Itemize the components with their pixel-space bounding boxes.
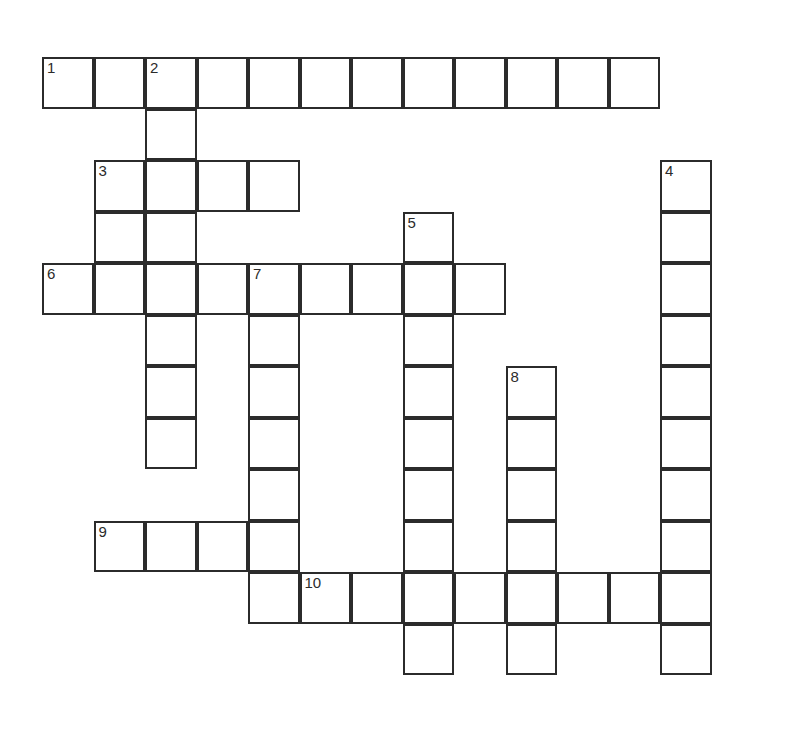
crossword-cell[interactable] [145, 418, 197, 470]
crossword-cell[interactable] [403, 57, 455, 109]
crossword-cell[interactable] [660, 315, 712, 367]
crossword-cell[interactable] [197, 160, 249, 212]
crossword-cell[interactable] [403, 366, 455, 418]
crossword-cell[interactable] [248, 57, 300, 109]
crossword-cell[interactable] [403, 624, 455, 676]
crossword-cell[interactable]: 4 [660, 160, 712, 212]
crossword-cell[interactable] [660, 263, 712, 315]
crossword-cell[interactable] [609, 57, 661, 109]
crossword-cell[interactable] [351, 572, 403, 624]
crossword-cell[interactable] [660, 366, 712, 418]
crossword-cell[interactable] [660, 418, 712, 470]
crossword-cell[interactable]: 8 [506, 366, 558, 418]
crossword-cell[interactable] [145, 366, 197, 418]
crossword-cell[interactable] [454, 263, 506, 315]
crossword-grid[interactable]: 12345678910 [0, 0, 796, 734]
crossword-cell[interactable] [609, 572, 661, 624]
crossword-cell[interactable] [454, 57, 506, 109]
crossword-cell[interactable]: 9 [94, 521, 146, 573]
cell-number: 10 [305, 574, 321, 591]
crossword-cell[interactable] [403, 418, 455, 470]
crossword-cell[interactable]: 5 [403, 212, 455, 264]
crossword-cell[interactable] [660, 212, 712, 264]
crossword-cell[interactable] [403, 521, 455, 573]
crossword-cell[interactable]: 6 [42, 263, 94, 315]
crossword-cell[interactable] [145, 521, 197, 573]
cell-number: 3 [99, 162, 107, 179]
crossword-cell[interactable] [403, 263, 455, 315]
crossword-cell[interactable] [197, 521, 249, 573]
cell-number: 7 [253, 265, 261, 282]
crossword-cell[interactable] [506, 624, 558, 676]
crossword-puzzle: 12345678910 [0, 0, 796, 734]
crossword-cell[interactable] [557, 572, 609, 624]
crossword-cell[interactable] [506, 418, 558, 470]
crossword-cell[interactable] [145, 160, 197, 212]
cell-number: 4 [665, 162, 673, 179]
crossword-cell[interactable] [557, 57, 609, 109]
crossword-cell[interactable] [248, 572, 300, 624]
cell-number: 8 [511, 368, 519, 385]
crossword-cell[interactable] [454, 572, 506, 624]
crossword-cell[interactable] [351, 57, 403, 109]
crossword-cell[interactable] [248, 521, 300, 573]
crossword-cell[interactable] [248, 315, 300, 367]
crossword-cell[interactable] [145, 263, 197, 315]
crossword-cell[interactable] [145, 315, 197, 367]
crossword-cell[interactable] [403, 469, 455, 521]
crossword-cell[interactable]: 7 [248, 263, 300, 315]
crossword-cell[interactable] [145, 109, 197, 161]
crossword-cell[interactable] [660, 469, 712, 521]
crossword-cell[interactable] [94, 212, 146, 264]
crossword-cell[interactable] [145, 212, 197, 264]
crossword-cell[interactable] [248, 469, 300, 521]
crossword-cell[interactable]: 10 [300, 572, 352, 624]
crossword-cell[interactable] [351, 263, 403, 315]
cell-number: 1 [47, 59, 55, 76]
crossword-cell[interactable] [197, 263, 249, 315]
crossword-cell[interactable] [506, 57, 558, 109]
cell-number: 9 [99, 523, 107, 540]
crossword-cell[interactable] [94, 263, 146, 315]
cell-number: 2 [150, 59, 158, 76]
cell-number: 5 [408, 214, 416, 231]
crossword-cell[interactable] [300, 263, 352, 315]
crossword-cell[interactable] [248, 160, 300, 212]
crossword-cell[interactable] [248, 366, 300, 418]
crossword-cell[interactable]: 3 [94, 160, 146, 212]
cell-number: 6 [47, 265, 55, 282]
crossword-cell[interactable] [660, 624, 712, 676]
crossword-cell[interactable] [660, 572, 712, 624]
crossword-cell[interactable] [506, 469, 558, 521]
crossword-cell[interactable]: 1 [42, 57, 94, 109]
crossword-cell[interactable]: 2 [145, 57, 197, 109]
crossword-cell[interactable] [403, 572, 455, 624]
crossword-cell[interactable] [660, 521, 712, 573]
crossword-cell[interactable] [94, 57, 146, 109]
crossword-cell[interactable] [248, 418, 300, 470]
crossword-cell[interactable] [506, 521, 558, 573]
crossword-cell[interactable] [197, 57, 249, 109]
crossword-cell[interactable] [300, 57, 352, 109]
crossword-cell[interactable] [403, 315, 455, 367]
crossword-cell[interactable] [506, 572, 558, 624]
